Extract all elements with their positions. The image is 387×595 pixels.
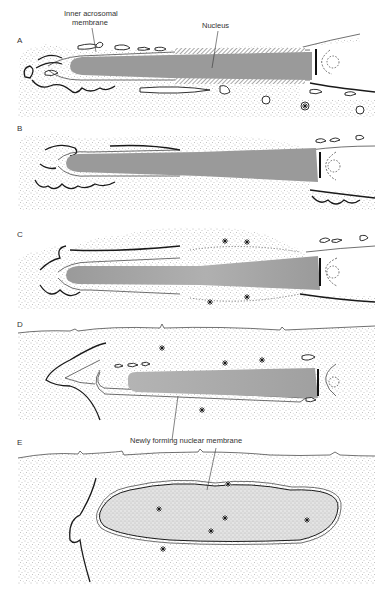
label-newly-forming-nuclear-membrane: Newly forming nuclear membrane	[130, 436, 242, 445]
panel-a-letter: A	[17, 36, 23, 45]
decondensation-diagram: A	[0, 0, 387, 595]
panel-e: E Newly forming nuclear membrane	[17, 436, 375, 584]
panel-e-letter: E	[17, 438, 22, 447]
label-inner-acrosomal-membrane-line2: membrane	[72, 18, 108, 27]
panel-d: D	[17, 320, 375, 440]
panel-a: A	[17, 9, 375, 118]
pronucleus	[99, 484, 338, 542]
panel-d-letter: D	[17, 320, 23, 329]
panel-c-letter: C	[17, 230, 23, 239]
panel-b: B	[17, 124, 375, 210]
label-inner-acrosomal-membrane: Inner acrosomal	[64, 9, 118, 18]
panel-c: C	[17, 228, 375, 310]
panel-b-letter: B	[17, 124, 22, 133]
label-nucleus: Nucleus	[202, 21, 229, 30]
